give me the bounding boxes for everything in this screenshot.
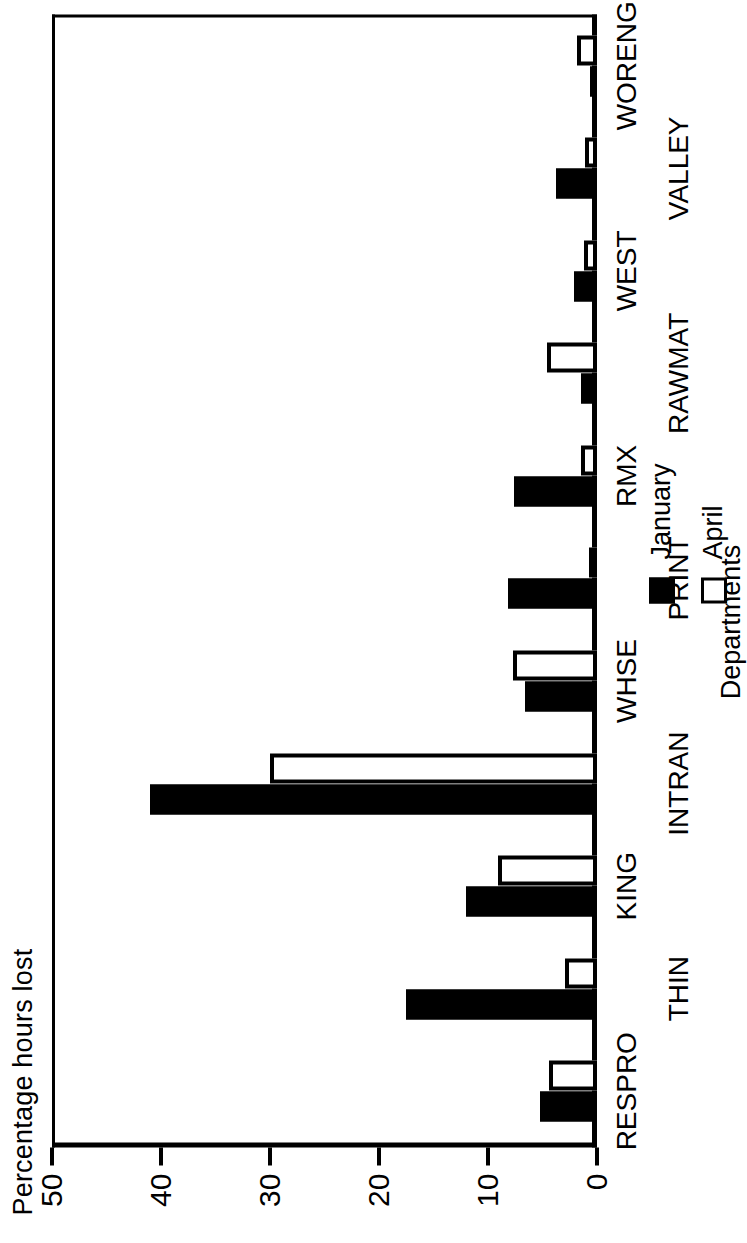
category-label-west: WEST [612,230,642,311]
bar-april-west [584,240,597,270]
bar-group [52,342,597,403]
category-label-valley: VALLEY [664,116,694,220]
bar-group [52,445,597,506]
category-label-respro: RESPRO [612,1032,642,1150]
category-label-thin: THIN [664,956,694,1021]
bar-january-west [574,271,597,301]
bar-group [52,958,597,1019]
bar-april-print [589,548,597,578]
legend-swatch-april-icon [701,577,727,603]
value-axis-tick [377,1147,381,1165]
y-axis-title-text: Percentage hours lost [8,855,39,1215]
bar-group [52,753,597,814]
bar-january-rmx [514,476,597,506]
bar-january-valley [556,168,597,198]
category-label-rawmat: RAWMAT [664,312,694,433]
bar-april-valley [585,137,597,167]
value-axis-line [52,1142,597,1147]
bar-group [52,1060,597,1121]
category-label-woreng: WORENG [612,1,642,130]
legend-swatch-january-icon [649,577,675,603]
bars-area [52,14,597,1142]
bar-january-whse [525,681,597,711]
value-axis-tick [50,1147,54,1165]
bar-january-print [508,579,597,609]
legend-item-april: April [700,505,727,603]
value-axis-tick-label: 10 [473,1173,503,1243]
value-axis-tick-label: 50 [37,1173,67,1243]
bar-january-intran [150,784,597,814]
bar-january-thin [406,989,597,1019]
value-axis-tick-label: 40 [146,1173,176,1243]
value-axis-tick [159,1147,163,1165]
bar-april-whse [513,650,597,680]
bar-april-intran [270,753,597,783]
bar-april-king [498,855,597,885]
bar-april-woreng [577,35,597,65]
category-label-rmx: RMX [612,444,642,506]
value-axis-tick-label: 30 [255,1173,285,1243]
bar-january-respro [540,1091,597,1121]
bar-group [52,137,597,198]
bar-april-rawmat [547,342,597,372]
value-axis-tick-label: 0 [582,1173,612,1243]
bar-april-thin [565,958,597,988]
category-label-king: KING [612,851,642,919]
bar-january-rawmat [581,373,597,403]
bar-group [52,650,597,711]
category-label-whse: WHSE [612,639,642,723]
bar-april-rmx [581,445,597,475]
legend-label-april: April [700,505,727,559]
bar-january-woreng [590,66,597,96]
x-axis-title: Departments [716,0,747,1243]
bar-april-respro [549,1060,597,1090]
category-label-intran: INTRAN [664,731,694,835]
value-axis-tick [268,1147,272,1165]
value-axis-tick [486,1147,490,1165]
bar-group [52,240,597,301]
legend-label-january: January [648,463,675,559]
bar-group [52,855,597,916]
bar-group [52,548,597,609]
value-axis-tick-label: 20 [364,1173,394,1243]
bar-group [52,35,597,96]
bar-january-king [466,886,597,916]
legend-item-january: January [648,463,675,603]
value-axis-tick [595,1147,599,1165]
